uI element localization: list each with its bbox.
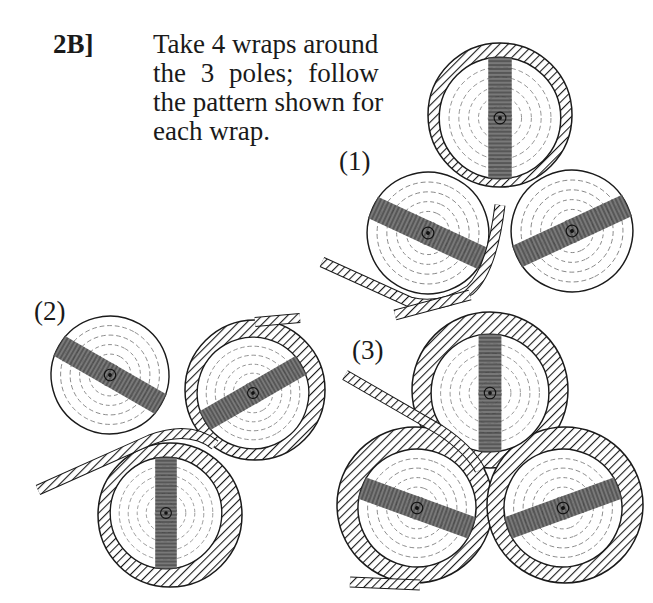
lashing-diagram-3 xyxy=(0,0,653,603)
